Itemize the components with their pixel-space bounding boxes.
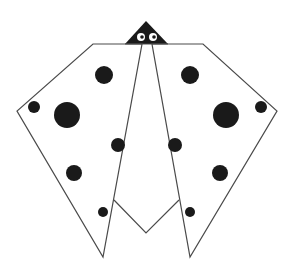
left-wing — [17, 44, 142, 257]
spot — [213, 102, 239, 128]
spot — [95, 66, 113, 84]
spot — [181, 66, 199, 84]
spot — [255, 101, 267, 113]
body-center — [114, 200, 179, 233]
spot — [98, 207, 108, 217]
spot — [28, 101, 40, 113]
spot — [185, 207, 195, 217]
spot — [111, 138, 125, 152]
ladybug-illustration — [0, 0, 293, 270]
spot — [168, 138, 182, 152]
spot — [66, 165, 82, 181]
spot — [54, 102, 80, 128]
head — [125, 21, 168, 44]
spot — [212, 165, 228, 181]
